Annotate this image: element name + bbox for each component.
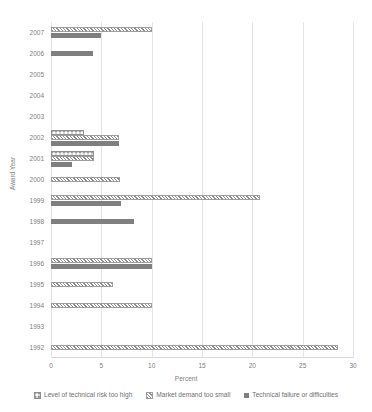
bar-1996-series-1 (51, 258, 152, 263)
bar-2000-series-1 (51, 177, 120, 182)
x-tick-label: 30 (349, 362, 356, 369)
gridline (353, 22, 354, 358)
gridline (152, 22, 153, 358)
bar-chart: 2007200620052004200320022001200019991998… (0, 0, 372, 412)
gridline (303, 22, 304, 358)
x-tick-label: 10 (148, 362, 155, 369)
legend-item-2[interactable]: Technical failure or difficulties (244, 392, 338, 399)
y-tick-label: 1994 (4, 302, 44, 309)
legend-label: Level of technical risk too high (44, 392, 132, 399)
legend-item-0[interactable]: Level of technical risk too high (34, 392, 132, 399)
bar-2001-series-1 (51, 156, 94, 161)
bar-2002-series-0 (51, 130, 84, 135)
legend-label: Market demand too small (156, 392, 230, 399)
diagonal-hatch-swatch (146, 392, 153, 399)
y-tick-label: 2007 (4, 29, 44, 36)
bar-2001-series-2 (51, 162, 72, 167)
x-tick-label: 0 (49, 362, 53, 369)
y-tick-label: 1998 (4, 218, 44, 225)
y-tick-label: 1995 (4, 281, 44, 288)
gridline (202, 22, 203, 358)
solid-gray-swatch (244, 393, 249, 398)
bar-2001-series-0 (51, 151, 94, 156)
bar-1994-series-1 (51, 303, 152, 308)
legend-item-1[interactable]: Market demand too small (146, 392, 230, 399)
gridline (252, 22, 253, 358)
chart-legend: Level of technical risk too highMarket d… (0, 392, 372, 399)
bar-2002-series-1 (51, 135, 119, 140)
bar-2002-series-2 (51, 141, 119, 146)
bar-1999-series-1 (51, 195, 260, 200)
y-tick-label: 1997 (4, 239, 44, 246)
y-tick-label: 2002 (4, 134, 44, 141)
y-tick-label: 1992 (4, 344, 44, 351)
y-tick-label: 1996 (4, 260, 44, 267)
x-tick-label: 15 (198, 362, 205, 369)
bar-1995-series-1 (51, 282, 113, 287)
y-tick-label: 2004 (4, 92, 44, 99)
y-axis-title: Award Year (9, 144, 16, 204)
y-tick-label: 2003 (4, 113, 44, 120)
y-tick-label: 1993 (4, 323, 44, 330)
bar-1992-series-1 (51, 345, 338, 350)
y-tick-label: 2005 (4, 71, 44, 78)
bar-1998-series-2 (51, 219, 134, 224)
x-axis-title: Percent (0, 375, 372, 382)
bar-2006-series-2 (51, 51, 93, 56)
dotted-weave-swatch (34, 392, 41, 399)
legend-label: Technical failure or difficulties (252, 392, 338, 399)
bar-1996-series-2 (51, 264, 152, 269)
y-tick-label: 2006 (4, 50, 44, 57)
bar-2007-series-1 (51, 27, 152, 32)
bar-1999-series-2 (51, 201, 121, 206)
x-tick-label: 5 (100, 362, 104, 369)
plot-area (51, 22, 353, 358)
bar-2007-series-2 (51, 33, 101, 38)
x-tick-label: 25 (299, 362, 306, 369)
x-tick-label: 20 (249, 362, 256, 369)
